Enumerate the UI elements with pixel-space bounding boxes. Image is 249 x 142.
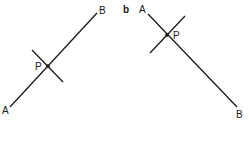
panel-label-b: b [123,4,129,15]
point-p-marker [165,33,169,37]
segment-ab [148,14,237,107]
diagram-b: b A B P [123,4,243,120]
segment-ab [10,13,97,107]
label-a: A [2,105,9,116]
label-p: P [35,61,42,72]
label-a: A [139,4,146,15]
label-b: B [99,5,106,16]
diagram-canvas: A B P b A B P [0,0,249,142]
diagram-a: A B P [2,5,106,116]
label-b: B [236,109,243,120]
label-p: P [173,30,180,41]
point-p-marker [46,64,50,68]
